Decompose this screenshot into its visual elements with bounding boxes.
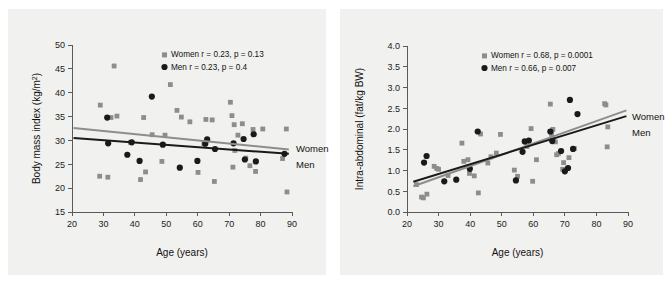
data-point bbox=[98, 103, 103, 108]
data-point bbox=[547, 128, 553, 134]
data-point bbox=[196, 170, 201, 175]
data-point bbox=[105, 175, 110, 180]
data-point bbox=[251, 127, 256, 132]
data-point bbox=[534, 157, 539, 162]
y-tick-label: 1.5 bbox=[387, 145, 400, 155]
data-point bbox=[574, 111, 580, 117]
data-point bbox=[530, 179, 535, 184]
series-points-women bbox=[97, 64, 289, 195]
y-tick-label: 3.5 bbox=[387, 62, 400, 72]
y-tick-label: 0.0 bbox=[387, 207, 400, 217]
data-point bbox=[424, 192, 429, 197]
x-tick-label: 50 bbox=[161, 219, 171, 229]
data-point bbox=[228, 100, 233, 105]
data-point bbox=[187, 119, 192, 124]
data-point bbox=[472, 173, 477, 178]
x-tick-label: 80 bbox=[591, 219, 601, 229]
data-point bbox=[570, 146, 576, 152]
data-point bbox=[232, 122, 237, 127]
data-point bbox=[567, 97, 573, 103]
data-point bbox=[475, 128, 481, 134]
data-point bbox=[253, 169, 258, 174]
data-point bbox=[561, 160, 566, 165]
y-tick-label: 25 bbox=[55, 160, 65, 170]
data-point bbox=[460, 141, 465, 146]
data-point bbox=[104, 114, 110, 120]
data-point bbox=[605, 144, 610, 149]
x-tick-label: 30 bbox=[98, 219, 108, 229]
series-annotation-women: Women bbox=[632, 111, 665, 122]
data-point bbox=[285, 190, 290, 195]
x-tick-label: 70 bbox=[560, 219, 570, 229]
y-tick-label: 40 bbox=[55, 88, 65, 98]
y-tick-label: 20 bbox=[55, 183, 65, 193]
legend-label-men: Men r = 0.66, p = 0.007 bbox=[491, 64, 577, 73]
y-tick-label: 3.0 bbox=[387, 83, 400, 93]
data-point bbox=[194, 158, 200, 164]
data-point bbox=[565, 165, 571, 171]
data-point bbox=[230, 113, 235, 118]
data-point bbox=[529, 126, 534, 131]
data-point bbox=[240, 121, 245, 126]
y-axis-title: Intra-abdominal (fat/kg BW) bbox=[354, 68, 365, 190]
data-point bbox=[453, 177, 459, 183]
x-tick-label: 20 bbox=[67, 219, 77, 229]
y-axis-title: Body mass index (kg/m2) bbox=[31, 73, 43, 184]
data-point bbox=[421, 160, 427, 166]
legend-marker-men bbox=[161, 64, 167, 70]
y-tick-label: 35 bbox=[55, 112, 65, 122]
data-point bbox=[513, 177, 519, 183]
x-tick-label: 60 bbox=[193, 219, 203, 229]
series-annotation-men: Men bbox=[632, 127, 650, 138]
x-tick-label: 50 bbox=[497, 219, 507, 229]
legend-label-women: Women r = 0.23, p = 0.13 bbox=[171, 50, 264, 59]
data-point bbox=[210, 118, 215, 123]
data-point bbox=[177, 165, 183, 171]
data-point bbox=[112, 64, 117, 69]
data-point bbox=[476, 191, 481, 196]
data-point bbox=[138, 177, 143, 182]
legend-marker-women bbox=[482, 53, 487, 58]
data-point bbox=[466, 157, 471, 162]
data-point bbox=[124, 152, 130, 158]
x-tick-label: 90 bbox=[287, 219, 297, 229]
data-point bbox=[605, 125, 610, 130]
data-point bbox=[231, 165, 236, 170]
data-point bbox=[175, 108, 180, 113]
data-point bbox=[423, 153, 429, 159]
data-point bbox=[441, 178, 447, 184]
panel-bmi-vs-age: 20304050607080901520253035404550Age (yea… bbox=[0, 0, 336, 285]
data-point bbox=[97, 174, 102, 179]
data-point bbox=[461, 159, 466, 164]
x-axis-title: Age (years) bbox=[492, 247, 544, 258]
data-point bbox=[548, 102, 553, 107]
data-point bbox=[168, 82, 173, 87]
legend-label-men: Men r = 0.23, p = 0.4 bbox=[171, 63, 247, 72]
data-point bbox=[260, 127, 265, 132]
x-tick-label: 70 bbox=[224, 219, 234, 229]
data-point bbox=[143, 170, 148, 175]
data-point bbox=[136, 158, 142, 164]
data-point bbox=[526, 138, 532, 144]
y-tick-label: 2.0 bbox=[387, 124, 400, 134]
data-point bbox=[179, 115, 184, 120]
data-point bbox=[159, 159, 164, 164]
data-point bbox=[242, 156, 248, 162]
bmi-scatter-plot: 20304050607080901520253035404550Age (yea… bbox=[0, 0, 336, 285]
data-point bbox=[212, 179, 217, 184]
data-point bbox=[203, 117, 208, 122]
series-points-men bbox=[104, 93, 287, 170]
x-tick-label: 20 bbox=[402, 219, 412, 229]
y-tick-label: 30 bbox=[55, 136, 65, 146]
y-tick-label: 50 bbox=[55, 40, 65, 50]
legend-marker-women bbox=[162, 52, 167, 57]
data-point bbox=[284, 127, 289, 132]
x-tick-label: 30 bbox=[434, 219, 444, 229]
figure-container: 20304050607080901520253035404550Age (yea… bbox=[0, 0, 671, 285]
x-tick-label: 40 bbox=[465, 219, 475, 229]
y-tick-label: 15 bbox=[55, 207, 65, 217]
x-tick-label: 80 bbox=[256, 219, 266, 229]
data-point bbox=[115, 114, 120, 119]
data-point bbox=[236, 133, 241, 138]
data-point bbox=[149, 93, 155, 99]
